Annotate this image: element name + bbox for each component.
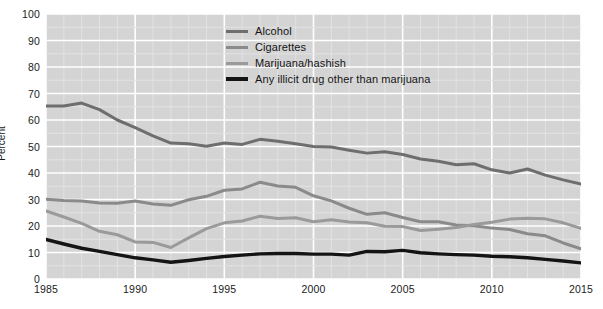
y-axis-tick-label: 60 — [0, 114, 40, 126]
x-axis-tick-label: 1990 — [123, 283, 147, 295]
legend-item-label: Marijuana/hashish — [255, 57, 346, 69]
y-axis-tick-labels: 0102030405060708090100 — [0, 0, 44, 309]
x-axis-tick-label: 2000 — [301, 283, 325, 295]
legend-line-swatch — [226, 30, 248, 33]
legend-line-swatch — [226, 62, 248, 65]
x-axis-tick-labels: 1985199019952000200520102015 — [0, 283, 603, 305]
legend-item[interactable]: Any illicit drug other than marijuana — [226, 72, 431, 86]
legend-item[interactable]: Marijuana/hashish — [226, 56, 431, 70]
x-axis-tick-label: 2010 — [480, 283, 504, 295]
x-axis-tick-label: 2015 — [569, 283, 593, 295]
legend-item[interactable]: Cigarettes — [226, 40, 431, 54]
legend-item-label: Any illicit drug other than marijuana — [255, 73, 431, 85]
legend-line-swatch — [226, 46, 248, 49]
y-axis-tick-label: 50 — [0, 141, 40, 153]
legend-item[interactable]: Alcohol — [226, 24, 431, 38]
y-axis-tick-label: 30 — [0, 194, 40, 206]
legend-item-label: Alcohol — [255, 25, 292, 37]
y-axis-tick-label: 70 — [0, 88, 40, 100]
series-line — [46, 240, 581, 263]
legend-line-swatch — [226, 77, 248, 81]
chart-legend: AlcoholCigarettesMarijuana/hashishAny il… — [226, 24, 431, 86]
y-axis-tick-label: 90 — [0, 35, 40, 47]
x-axis-tick-label: 1995 — [212, 283, 236, 295]
y-axis-tick-label: 20 — [0, 220, 40, 232]
y-axis-tick-label: 100 — [0, 8, 40, 20]
y-axis-tick-label: 80 — [0, 61, 40, 73]
chart-root: Percent 0102030405060708090100 198519901… — [0, 0, 603, 309]
y-axis-tick-label: 10 — [0, 247, 40, 259]
x-axis-tick-label: 1985 — [34, 283, 58, 295]
x-axis-tick-label: 2005 — [391, 283, 415, 295]
series-line — [46, 103, 581, 184]
legend-item-label: Cigarettes — [255, 41, 306, 53]
y-axis-tick-label: 40 — [0, 167, 40, 179]
